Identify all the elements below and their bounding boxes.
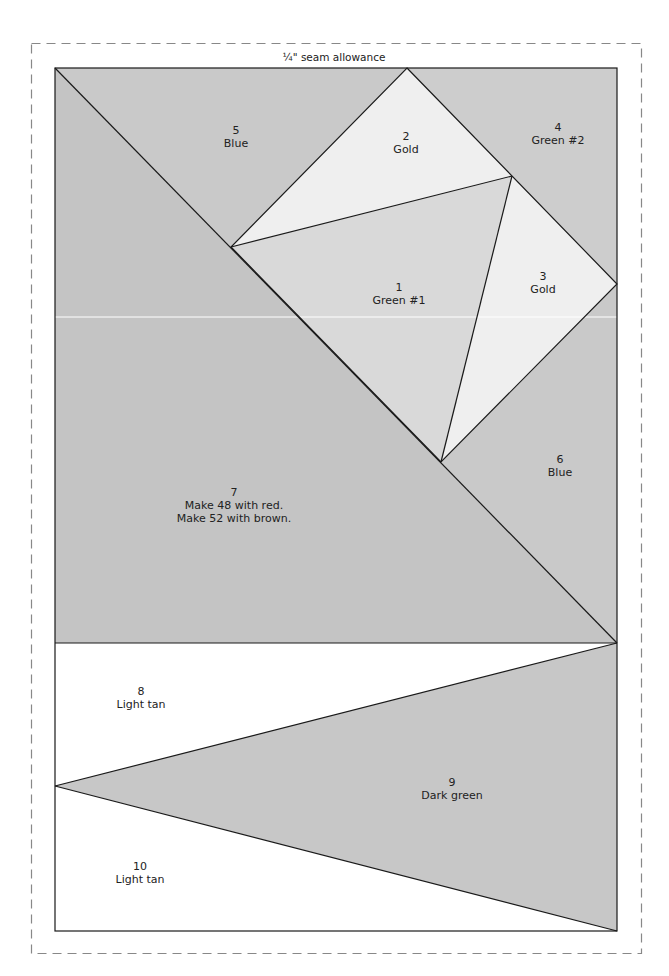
piece-1-label: 1 Green #1 <box>372 281 425 307</box>
piece-3-label: 3 Gold <box>530 270 555 296</box>
piece-10-label: 10 Light tan <box>116 860 165 886</box>
piece-8-label: 8 Light tan <box>117 685 166 711</box>
piece-2-label: 2 Gold <box>393 130 418 156</box>
piece-9-label: 9 Dark green <box>421 776 482 802</box>
piece-4-label: 4 Green #2 <box>531 121 584 147</box>
piece-6-label: 6 Blue <box>548 453 572 479</box>
piece-5-label: 5 Blue <box>224 124 248 150</box>
seam-allowance-label: ¼" seam allowance <box>283 51 386 63</box>
piece-7-label: 7 Make 48 with red. Make 52 with brown. <box>177 486 291 525</box>
